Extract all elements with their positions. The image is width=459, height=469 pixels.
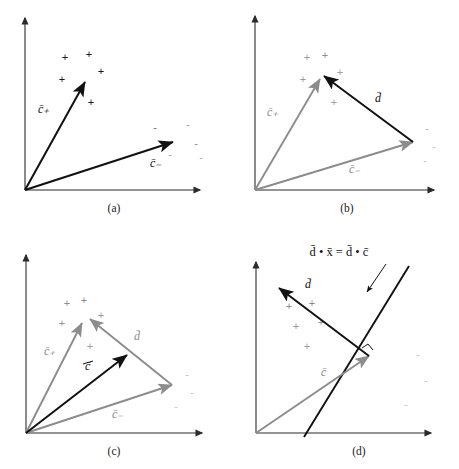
markers-plus-d: + + + + + (286, 297, 324, 352)
decision-boundary-line (304, 266, 409, 437)
x-axis-arrowhead (425, 430, 431, 435)
y-axis-arrowhead (253, 262, 258, 268)
plus-marker: + (98, 65, 104, 77)
minus-marker: - (432, 140, 436, 152)
plus-marker: + (309, 297, 315, 309)
panel-caption-d: (d) (352, 445, 366, 458)
plus-marker: + (87, 340, 93, 352)
panel-caption-b: (b) (340, 202, 354, 215)
plus-marker: + (59, 317, 65, 329)
plus-marker: + (331, 96, 337, 108)
x-axis-arrowhead (428, 187, 434, 192)
minus-marker: - (423, 154, 427, 166)
label-c-plus: c̄₊ (38, 102, 50, 116)
panel-b: + + + + + - - - c̄₊ c̄₋ d̄ (b) (229, 0, 458, 234)
panel-a: + + + + + - - - - - c̄₊ c̄₋ (a) (0, 0, 229, 234)
panel-caption-a: (a) (108, 202, 121, 215)
minus-marker: - (194, 137, 198, 149)
minus-marker: - (153, 121, 157, 133)
label-d: d̄ (134, 329, 141, 343)
panel-caption-c: (c) (108, 445, 121, 458)
panel-b-canvas: + + + + + - - - c̄₊ c̄₋ d̄ (b) (229, 0, 458, 234)
label-c-minus: c̄₋ (349, 162, 361, 176)
x-axis-arrowhead (194, 187, 200, 192)
y-axis-arrowhead (23, 255, 28, 261)
plus-marker: + (62, 51, 68, 63)
label-c-minus: c̄₋ (112, 407, 124, 421)
label-c-plus: c̄₊ (44, 344, 56, 358)
plus-marker: + (337, 66, 343, 78)
plus-marker: + (322, 49, 328, 61)
axes-b (252, 16, 434, 193)
plus-marker: + (304, 51, 310, 63)
minus-marker: - (416, 348, 420, 360)
plus-marker: + (88, 96, 94, 108)
markers-plus-b: + + + + + (300, 49, 343, 108)
panel-d-canvas: + + + + + - - - d̄ c̄ d̄ • x̄ = d̄ • c̄ … (229, 234, 458, 468)
minus-marker: - (185, 368, 189, 380)
minus-marker: - (174, 400, 178, 412)
panel-d: + + + + + - - - d̄ c̄ d̄ • x̄ = d̄ • c̄ … (229, 234, 458, 468)
minus-marker: - (199, 151, 203, 163)
right-angle-marker (362, 344, 373, 350)
panel-c: + + + + + - - - c̄₊ c̄₋ d̄ c̄ (c) (0, 234, 229, 468)
figure-root: + + + + + - - - - - c̄₊ c̄₋ (a) (0, 0, 459, 469)
plus-marker: + (293, 320, 299, 332)
label-c-bar: c̄ (321, 365, 327, 379)
vector-d (324, 76, 413, 142)
vector-c-bar (26, 355, 127, 433)
markers-minus-b: - - - (423, 122, 436, 166)
plus-marker: + (81, 294, 87, 306)
minus-marker: - (186, 118, 190, 130)
y-axis-arrowhead (22, 18, 27, 24)
label-c-bar: c̄ (85, 359, 91, 373)
x-axis-arrowhead (196, 430, 202, 435)
plus-marker: + (86, 48, 92, 60)
plus-marker: + (304, 340, 310, 352)
markers-minus-d: - - - (404, 348, 428, 410)
decision-boundary-equation: d̄ • x̄ = d̄ • c̄ (310, 245, 369, 259)
plus-marker: + (59, 73, 65, 85)
y-axis-arrowhead (252, 16, 257, 22)
markers-plus-a: + + + + + (59, 48, 104, 108)
label-c-minus: c̄₋ (150, 156, 162, 170)
minus-marker: - (404, 398, 408, 410)
plus-marker: + (300, 73, 306, 85)
plus-marker: + (64, 297, 70, 309)
minus-marker: - (424, 374, 428, 386)
label-d: d̄ (305, 277, 312, 291)
label-c-plus: c̄₊ (267, 105, 279, 119)
panel-c-canvas: + + + + + - - - c̄₊ c̄₋ d̄ c̄ (c) (0, 234, 229, 468)
plus-marker: + (286, 300, 292, 312)
minus-marker: - (168, 148, 172, 160)
minus-marker: - (190, 386, 194, 398)
markers-minus-c: - - - (174, 368, 194, 412)
minus-marker: - (425, 122, 429, 134)
vector-c-minus (26, 385, 172, 433)
panel-a-canvas: + + + + + - - - - - c̄₊ c̄₋ (a) (0, 0, 229, 234)
label-d: d̄ (375, 91, 382, 105)
plus-marker: + (98, 309, 104, 321)
equation-leader-arrow (367, 264, 386, 292)
